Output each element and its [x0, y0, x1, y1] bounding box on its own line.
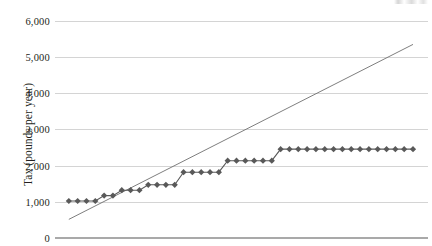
data-point-marker [295, 146, 301, 152]
data-point-marker [233, 158, 239, 164]
data-point-marker [75, 198, 81, 204]
reference-line-series [69, 44, 413, 219]
data-point-marker [136, 187, 142, 193]
data-point-marker [357, 146, 363, 152]
data-point-marker [286, 146, 292, 152]
data-point-marker [260, 158, 266, 164]
data-point-marker [66, 198, 72, 204]
data-point-marker [410, 146, 416, 152]
data-point-marker [366, 146, 372, 152]
data-point-marker [383, 146, 389, 152]
data-point-marker [392, 146, 398, 152]
data-point-marker [198, 169, 204, 175]
data-point-marker [242, 158, 248, 164]
data-point-marker [101, 193, 107, 199]
data-point-marker [322, 146, 328, 152]
data-point-marker [339, 146, 345, 152]
data-point-marker [313, 146, 319, 152]
data-point-marker [119, 187, 125, 193]
data-point-marker [401, 146, 407, 152]
data-point-marker [304, 146, 310, 152]
data-point-marker [145, 182, 151, 188]
tax-chart: Tax (pounds per year) 6,000 5,000 4,000 … [0, 0, 432, 246]
data-point-marker [207, 169, 213, 175]
data-point-marker [348, 146, 354, 152]
data-point-marker [189, 169, 195, 175]
plot-area [0, 0, 432, 246]
data-point-marker [163, 182, 169, 188]
data-point-marker [251, 158, 257, 164]
tax-data-markers [66, 146, 416, 204]
data-point-marker [375, 146, 381, 152]
data-point-marker [92, 198, 98, 204]
data-point-marker [128, 187, 134, 193]
data-point-marker [154, 182, 160, 188]
data-point-marker [83, 198, 89, 204]
data-point-marker [330, 146, 336, 152]
